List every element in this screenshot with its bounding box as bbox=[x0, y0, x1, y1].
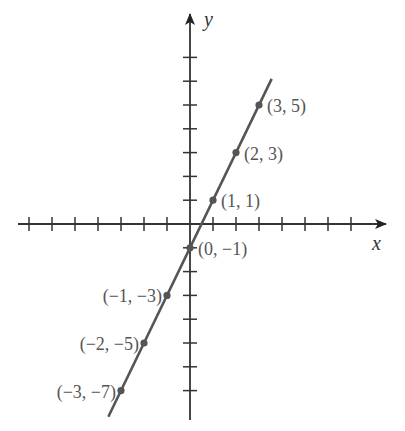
point-label: (−3, −7) bbox=[57, 382, 116, 403]
axes bbox=[18, 14, 386, 420]
point-label: (1, 1) bbox=[221, 191, 260, 212]
point-label: (−1, −3) bbox=[103, 286, 162, 307]
data-point bbox=[232, 149, 239, 156]
data-point bbox=[255, 101, 262, 108]
point-label: (0, −1) bbox=[198, 239, 247, 260]
point-label: (−2, −5) bbox=[80, 334, 139, 355]
data-point bbox=[117, 387, 124, 394]
point-label: (2, 3) bbox=[244, 144, 283, 165]
point-labels: (3, 5)(2, 3)(1, 1)(0, −1)(−1, −3)(−2, −5… bbox=[57, 96, 306, 403]
data-point bbox=[209, 197, 216, 204]
point-label: (3, 5) bbox=[267, 96, 306, 117]
y-axis-label: y bbox=[202, 8, 213, 31]
data-point bbox=[140, 339, 147, 346]
data-point bbox=[163, 292, 170, 299]
x-axis-label: x bbox=[371, 232, 381, 254]
coordinate-plot: (3, 5)(2, 3)(1, 1)(0, −1)(−1, −3)(−2, −5… bbox=[0, 0, 405, 431]
data-point bbox=[186, 244, 193, 251]
